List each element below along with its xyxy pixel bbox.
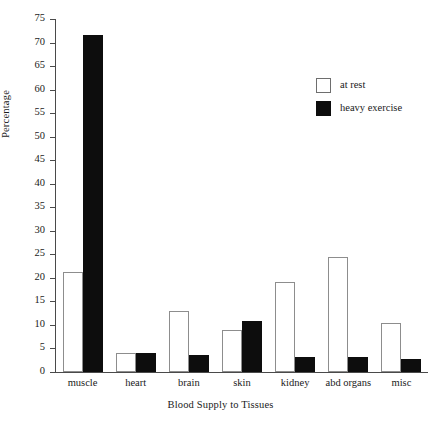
bar-at-rest [222,330,242,372]
bar-heavy-exercise [348,357,368,372]
bar-chart-figure: Percentage 05101520253035404550556065707… [0,0,441,426]
y-axis-tick-label: 15 [5,294,45,305]
y-axis-tick-mark [50,90,55,91]
bar-at-rest [275,282,295,372]
x-axis-tick-label: brain [178,377,200,388]
y-axis-tick-label: 35 [5,200,45,211]
legend-label-at-rest: at rest [340,79,365,90]
y-axis-tick-mark [50,301,55,302]
y-axis-tick-label: 40 [5,177,45,188]
y-axis-tick-label: 55 [5,106,45,117]
y-axis-tick-label: 5 [5,341,45,352]
bar-heavy-exercise [136,353,156,372]
x-axis-tick-label: abd organs [325,377,371,388]
x-axis-tick-label: kidney [281,377,310,388]
bar-at-rest [63,272,83,372]
y-axis-tick-label: 0 [5,365,45,376]
open-square-swatch-icon [316,78,331,93]
y-axis-tick-mark [50,160,55,161]
bar-heavy-exercise [295,357,315,372]
x-axis-title: Blood Supply to Tissues [0,399,441,410]
bar-at-rest [381,323,401,372]
bar-heavy-exercise [242,321,262,372]
y-axis-tick-label: 45 [5,153,45,164]
filled-square-swatch-icon [316,101,331,116]
bar-at-rest [116,353,136,372]
y-axis-tick-label: 60 [5,83,45,94]
y-axis-tick-mark [50,43,55,44]
bar-heavy-exercise [401,359,421,372]
y-axis-tick-mark [50,278,55,279]
x-axis-tick-label: skin [233,377,251,388]
bar-group [169,19,209,372]
y-axis-tick-label: 75 [5,12,45,23]
y-axis-tick-mark [50,184,55,185]
y-axis-tick-mark [50,19,55,20]
y-axis-tick-label: 20 [5,271,45,282]
chart-legend: at rest heavy exercise [316,78,441,124]
bar-group [116,19,156,372]
bar-group [328,19,368,372]
bar-at-rest [328,257,348,372]
bar-heavy-exercise [83,35,103,372]
y-axis-tick-mark [50,231,55,232]
y-axis-tick-mark [50,113,55,114]
y-axis-tick-mark [50,207,55,208]
bar-at-rest [169,311,189,372]
y-axis-tick-label: 65 [5,59,45,70]
x-axis-tick-label: muscle [68,377,98,388]
x-axis-tick-label: misc [392,377,412,388]
y-axis-tick-label: 25 [5,247,45,258]
y-axis-tick-mark [50,325,55,326]
bar-group [275,19,315,372]
bar-heavy-exercise [189,355,209,372]
y-axis-tick-label: 50 [5,130,45,141]
plot-area [56,19,428,373]
legend-label-heavy-exercise: heavy exercise [340,102,402,113]
y-axis-tick-mark [50,254,55,255]
y-axis-tick-label: 70 [5,36,45,47]
y-axis-tick-mark [50,348,55,349]
y-axis-tick-label: 30 [5,224,45,235]
legend-item-heavy-exercise: heavy exercise [316,101,441,124]
y-axis-tick-mark [50,137,55,138]
x-axis-tick-label: heart [125,377,146,388]
bar-group [381,19,421,372]
bar-group [63,19,103,372]
legend-item-at-rest: at rest [316,78,441,101]
y-axis-tick-mark [50,66,55,67]
bar-group [222,19,262,372]
y-axis-tick-label: 10 [5,318,45,329]
